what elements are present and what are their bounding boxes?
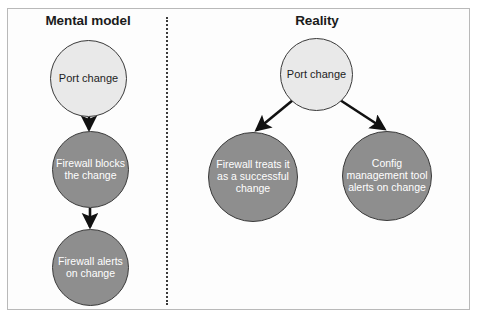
node-mental-firewall-alerts-on-change[interactable]: Firewall alerts on change bbox=[52, 229, 129, 306]
node-reality-firewall-treats-successful[interactable]: Firewall treats it as a successful chang… bbox=[208, 132, 298, 222]
node-label: Port change bbox=[287, 68, 346, 80]
node-reality-port-change[interactable]: Port change bbox=[280, 38, 353, 111]
diagram-canvas: Mental model Reality Port change Firewal… bbox=[0, 0, 479, 319]
node-label: Config management tool alerts on change bbox=[345, 158, 429, 193]
node-label: Firewall alerts on change bbox=[55, 256, 126, 280]
node-mental-port-change[interactable]: Port change bbox=[50, 40, 127, 117]
node-reality-config-management-alerts[interactable]: Config management tool alerts on change bbox=[342, 131, 432, 221]
panel-divider-dotted-line bbox=[166, 17, 168, 305]
panel-title-mental-model: Mental model bbox=[45, 13, 130, 28]
panel-title-reality: Reality bbox=[295, 13, 339, 28]
node-label: Port change bbox=[59, 72, 118, 84]
node-label: Firewall blocks the change bbox=[55, 158, 126, 182]
node-label: Firewall treats it as a successful chang… bbox=[211, 159, 295, 194]
node-mental-firewall-blocks-change[interactable]: Firewall blocks the change bbox=[52, 131, 129, 208]
